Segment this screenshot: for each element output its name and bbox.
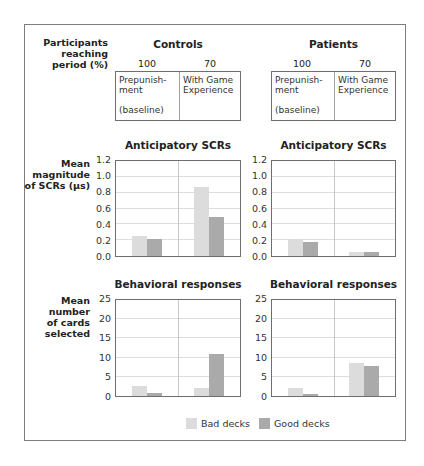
patients-period-box: Prepunish- ment (baseline) With Game Exp…	[271, 71, 396, 121]
bad-decks-bar	[288, 239, 303, 256]
good-decks-bar	[147, 239, 162, 256]
y-tick-label: 25	[243, 293, 267, 304]
axis-label-line: selected	[20, 328, 90, 339]
y-tick-label: 15	[87, 332, 111, 343]
controls-title: Controls	[115, 38, 241, 50]
good-decks-bar	[209, 354, 224, 396]
y-tick-label: 0.0	[243, 251, 267, 262]
patients-title: Patients	[271, 38, 396, 50]
period-divider-line	[178, 161, 179, 256]
axis-label-line: Mean	[20, 158, 90, 169]
good-decks-bar	[364, 366, 379, 396]
axis-label-line: number	[20, 306, 90, 317]
good-decks-bar	[209, 217, 224, 256]
bar-chart-plot	[271, 160, 396, 257]
y-tick-label: 0.6	[243, 203, 267, 214]
scr-axis-label: Mean magnitude of SCRs (μs)	[20, 158, 90, 191]
y-tick-label: 25	[87, 293, 111, 304]
good-decks-bar	[364, 252, 379, 256]
controls-pct-game: 70	[180, 58, 240, 69]
period-game: With Game Experience	[335, 72, 396, 120]
y-tick-label: 20	[243, 313, 267, 324]
chart-title: Behavioral responses	[105, 278, 251, 290]
period-text: (baseline)	[275, 105, 331, 115]
y-tick-label: 0.4	[243, 219, 267, 230]
legend-good-decks: Good decks	[274, 418, 330, 429]
y-tick-label: 0.2	[243, 235, 267, 246]
y-tick-label: 1.0	[87, 170, 111, 181]
y-tick-label: 0.2	[87, 235, 111, 246]
participants-row-label: Participants reaching period (%)	[30, 37, 108, 70]
bar-chart-plot	[115, 160, 241, 257]
good-decks-bar	[147, 393, 162, 396]
bad-decks-bar	[132, 386, 147, 396]
period-divider-line	[178, 300, 179, 396]
good-decks-bar	[303, 394, 318, 396]
bad-decks-swatch	[186, 418, 197, 429]
good-decks-bar	[303, 242, 318, 256]
y-tick-label: 5	[243, 371, 267, 382]
bad-decks-bar	[349, 252, 364, 256]
period-text: Experience	[183, 85, 238, 95]
chart-title: Behavioral responses	[261, 278, 406, 290]
period-text: (baseline)	[119, 105, 177, 115]
patients-pct-baseline: 100	[272, 58, 332, 69]
period-game: With Game Experience	[180, 72, 241, 120]
bad-decks-bar	[349, 363, 364, 396]
period-divider-line	[334, 300, 335, 396]
row-label-line: period (%)	[30, 59, 108, 70]
period-text: Prepunish-	[119, 75, 177, 85]
y-tick-label: 0.4	[87, 219, 111, 230]
bar-chart-plot	[271, 299, 396, 397]
bad-decks-bar	[132, 236, 147, 256]
period-text: Experience	[338, 85, 393, 95]
chart-title: Anticipatory SCRs	[261, 139, 406, 151]
axis-label-line: of cards	[20, 317, 90, 328]
y-tick-label: 1.0	[243, 170, 267, 181]
period-text: With Game	[183, 75, 238, 85]
y-tick-label: 1.2	[243, 154, 267, 165]
period-baseline: Prepunish- ment (baseline)	[116, 72, 180, 120]
row-label-line: Participants	[30, 37, 108, 48]
y-tick-label: 10	[87, 352, 111, 363]
y-tick-label: 0.8	[87, 186, 111, 197]
axis-label-line: of SCRs (μs)	[20, 180, 90, 191]
y-tick-label: 0	[243, 391, 267, 402]
bad-decks-bar	[194, 388, 209, 396]
period-divider-line	[334, 161, 335, 256]
y-tick-label: 5	[87, 371, 111, 382]
period-text: With Game	[338, 75, 393, 85]
legend-bad-decks: Bad decks	[201, 418, 250, 429]
controls-pct-baseline: 100	[117, 58, 177, 69]
y-tick-label: 0	[87, 391, 111, 402]
axis-label-line: Mean	[20, 295, 90, 306]
y-tick-label: 1.2	[87, 154, 111, 165]
y-tick-label: 10	[243, 352, 267, 363]
y-tick-label: 0.0	[87, 251, 111, 262]
y-tick-label: 20	[87, 313, 111, 324]
period-baseline: Prepunish- ment (baseline)	[272, 72, 334, 120]
controls-period-box: Prepunish- ment (baseline) With Game Exp…	[115, 71, 241, 121]
y-tick-label: 0.6	[87, 203, 111, 214]
y-tick-label: 0.8	[243, 186, 267, 197]
bad-decks-bar	[288, 388, 303, 396]
good-decks-swatch	[259, 418, 270, 429]
patients-pct-game: 70	[335, 58, 395, 69]
period-text: ment	[119, 85, 177, 95]
y-tick-label: 15	[243, 332, 267, 343]
period-text: ment	[275, 85, 331, 95]
cards-axis-label: Mean number of cards selected	[20, 295, 90, 339]
period-text: Prepunish-	[275, 75, 331, 85]
bar-chart-plot	[115, 299, 241, 397]
chart-title: Anticipatory SCRs	[105, 139, 251, 151]
row-label-line: reaching	[30, 48, 108, 59]
bad-decks-bar	[194, 187, 209, 256]
axis-label-line: magnitude	[20, 169, 90, 180]
